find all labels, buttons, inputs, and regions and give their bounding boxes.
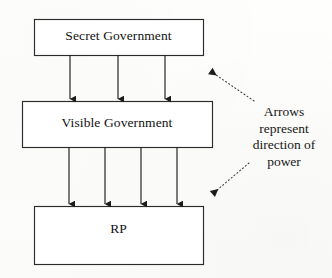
leader-line-upper xyxy=(211,72,254,102)
callout-line-3: direction of xyxy=(238,137,330,154)
callout-line-2: represent xyxy=(238,121,330,138)
diagram-canvas: Secret Government Visible Government RP … xyxy=(0,0,332,278)
callout-annotation-text: Arrows represent direction of power xyxy=(238,104,330,170)
box-label-rp: RP xyxy=(34,221,203,237)
callout-line-4: power xyxy=(238,154,330,171)
flow-visible-to-rp xyxy=(69,147,177,204)
flow-secret-to-visible xyxy=(70,55,165,99)
callout-line-1: Arrows xyxy=(238,104,330,121)
box-label-secret-government: Secret Government xyxy=(34,28,203,44)
box-label-visible-government: Visible Government xyxy=(22,115,212,131)
